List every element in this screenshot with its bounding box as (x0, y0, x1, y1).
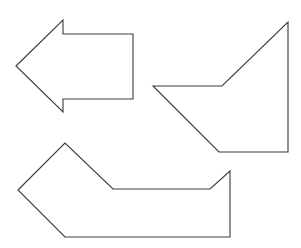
bottom-polygon-shape (18, 143, 230, 237)
left-arrow-shape (16, 20, 133, 112)
right-polygon-shape (153, 22, 288, 152)
diagram-canvas (0, 0, 301, 248)
